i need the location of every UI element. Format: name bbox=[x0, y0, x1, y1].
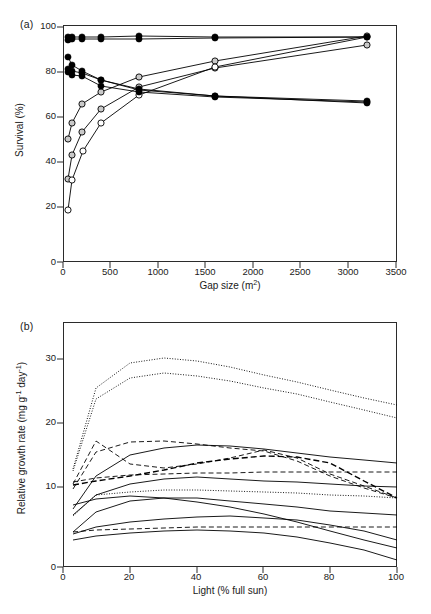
curve-dashed-thick-rise bbox=[73, 456, 397, 498]
panel-a-plot-svg bbox=[0, 0, 431, 295]
curve-dotted-high-1 bbox=[73, 358, 397, 469]
curve-dotted-high-2 bbox=[73, 373, 397, 471]
panel-b-curves bbox=[73, 358, 397, 560]
panel-a-ticks bbox=[57, 27, 396, 268]
curve-solid-mid-14 bbox=[73, 477, 397, 515]
panel-b-ticks bbox=[57, 359, 397, 573]
figure-container: (a) 100 80 60 40 20 0 0 500 1000 1500 20… bbox=[0, 0, 431, 614]
panel-a-open-markers bbox=[65, 33, 370, 213]
panel-a: (a) 100 80 60 40 20 0 0 500 1000 1500 20… bbox=[0, 0, 431, 295]
curve-dashed-peak-early bbox=[73, 441, 397, 498]
curve-solid-low-peak-50 bbox=[73, 516, 397, 540]
curve-solid-bottom bbox=[73, 530, 397, 560]
panel-b: (b) 30 20 10 0 0 20 40 60 80 100 Light (… bbox=[0, 300, 431, 614]
curve-dashed-hump-20 bbox=[73, 441, 397, 498]
panel-b-plot-svg bbox=[0, 300, 431, 614]
